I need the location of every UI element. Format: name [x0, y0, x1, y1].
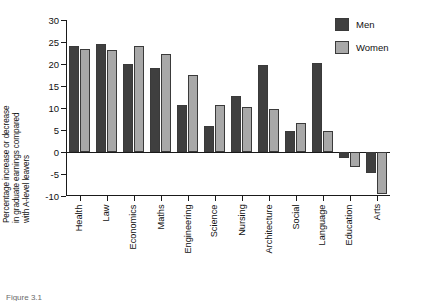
- bar-social-women: [296, 123, 307, 152]
- x-axis-label-nursing: Nursing: [236, 204, 246, 236]
- y-axis-tick: [61, 86, 66, 87]
- x-axis-tick: [377, 196, 378, 201]
- y-axis-title-line-1: Percentage increase or decrease: [2, 105, 11, 223]
- legend-label-women: Women: [356, 42, 389, 53]
- legend-swatch-men-icon: [335, 18, 349, 31]
- y-axis-title: Percentage increase or decrease in gradu…: [0, 8, 39, 223]
- x-axis-label-economics: Economics: [128, 204, 138, 249]
- x-axis-tick: [269, 196, 270, 201]
- x-axis-tick: [350, 196, 351, 201]
- x-axis-tick: [215, 196, 216, 201]
- legend-label-men: Men: [356, 19, 374, 30]
- x-axis-tick: [188, 196, 189, 201]
- y-axis-tick: [61, 130, 66, 131]
- bar-arts-men: [366, 152, 377, 173]
- x-axis-label-health: Health: [74, 204, 84, 231]
- bar-architecture-men: [258, 65, 269, 152]
- bar-law-women: [107, 50, 118, 152]
- y-axis-tick: [61, 174, 66, 175]
- y-axis-tick-label: 15: [48, 81, 59, 92]
- y-axis-title-line-2: in graduate earnings compared: [12, 113, 21, 223]
- bar-architecture-women: [269, 109, 280, 152]
- legend: Men Women: [335, 17, 427, 63]
- y-axis-tick-label: 5: [54, 125, 59, 136]
- x-axis-tick: [80, 196, 81, 201]
- legend-item-women: Women: [335, 40, 427, 54]
- bar-health-men: [69, 46, 80, 152]
- y-axis-tick-label: 25: [48, 37, 59, 48]
- bar-education-women: [350, 152, 361, 167]
- bar-health-women: [80, 49, 91, 152]
- x-axis-label-engineering: Engineering: [183, 204, 193, 253]
- figure-caption: Figure 3.1: [6, 293, 42, 301]
- legend-item-men: Men: [335, 17, 427, 31]
- bar-science-men: [204, 126, 215, 152]
- bar-nursing-women: [242, 107, 253, 152]
- bar-economics-women: [134, 46, 145, 152]
- bar-language-women: [323, 131, 334, 152]
- y-axis-tick: [61, 64, 66, 65]
- bar-education-men: [339, 152, 350, 158]
- y-axis-tick-label: -5: [51, 169, 59, 180]
- bar-maths-men: [150, 68, 161, 152]
- bar-law-men: [96, 44, 107, 152]
- x-axis-line: [66, 195, 390, 196]
- y-axis-title-line-3: with A-level leavers: [22, 155, 31, 223]
- y-axis-tick-label: 0: [54, 147, 59, 158]
- x-axis-tick: [161, 196, 162, 201]
- x-axis-label-law: Law: [101, 204, 111, 221]
- bar-engineering-women: [188, 75, 199, 152]
- legend-swatch-women-icon: [335, 41, 349, 54]
- y-axis-tick-label: -10: [45, 191, 59, 202]
- x-axis-label-maths: Maths: [156, 204, 166, 229]
- bar-science-women: [215, 105, 226, 152]
- x-axis-tick: [242, 196, 243, 201]
- bar-language-men: [312, 63, 323, 152]
- y-axis-tick: [61, 196, 66, 197]
- bar-economics-men: [123, 64, 134, 152]
- bar-maths-women: [161, 54, 172, 152]
- x-axis-label-arts: Arts: [372, 204, 382, 220]
- y-axis-tick: [61, 42, 66, 43]
- y-axis-tick: [61, 108, 66, 109]
- x-axis-label-language: Language: [317, 204, 327, 245]
- x-axis-label-architecture: Architecture: [264, 204, 274, 253]
- y-axis-tick-label: 30: [48, 15, 59, 26]
- y-axis-tick-label: 10: [48, 103, 59, 114]
- x-axis-tick: [296, 196, 297, 201]
- x-axis-label-science: Science: [209, 204, 219, 237]
- x-axis-label-social: Social: [291, 204, 301, 229]
- y-axis-tick-label: 20: [48, 59, 59, 70]
- x-axis-label-education: Education: [344, 204, 354, 245]
- x-axis-tick: [134, 196, 135, 201]
- bar-arts-women: [377, 152, 388, 194]
- x-axis-tick: [107, 196, 108, 201]
- bar-nursing-men: [231, 96, 242, 152]
- y-axis-tick: [61, 20, 66, 21]
- x-axis-tick: [323, 196, 324, 201]
- bar-engineering-men: [177, 105, 188, 152]
- y-axis-tick: [61, 152, 66, 153]
- y-axis-line: [66, 20, 67, 196]
- bar-social-men: [285, 131, 296, 152]
